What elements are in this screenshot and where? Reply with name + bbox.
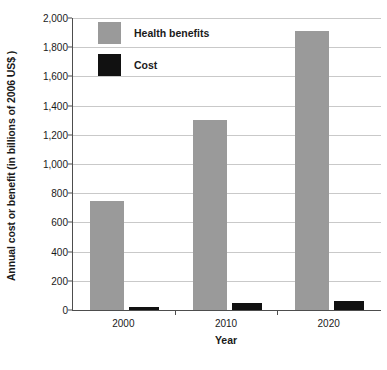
y-axis-tick-label: 1,800 — [43, 42, 68, 53]
y-axis-tick-label: 1,600 — [43, 71, 68, 82]
bar-health-benefits-2010[interactable] — [193, 120, 227, 310]
x-axis-tick-label: 2000 — [112, 318, 134, 329]
legend-label: Health benefits — [134, 27, 209, 39]
x-axis-tick-mark — [175, 311, 176, 315]
x-axis-tick-mark — [277, 311, 278, 315]
bar-cost-2000[interactable] — [129, 307, 159, 310]
bar-health-benefits-2020[interactable] — [295, 31, 329, 310]
legend-entry[interactable]: Cost — [98, 54, 209, 76]
y-axis-tick-label: 200 — [51, 275, 68, 286]
y-axis-tick-labels: 02004006008001,0001,2001,4001,6001,8002,… — [22, 18, 72, 310]
x-axis-tick-label: 2010 — [215, 318, 237, 329]
x-axis-title: Year — [72, 334, 380, 346]
y-axis-tick-label: 600 — [51, 217, 68, 228]
bar-cost-2010[interactable] — [232, 303, 262, 310]
y-axis-tick-label: 400 — [51, 246, 68, 257]
legend-swatch-cost — [98, 54, 121, 76]
y-axis-tick-label: 1,000 — [43, 159, 68, 170]
x-axis-tick-label: 2020 — [318, 318, 340, 329]
y-axis-tick-label: 2,000 — [43, 13, 68, 24]
y-axis-tick-label: 800 — [51, 188, 68, 199]
bar-cost-2020[interactable] — [334, 301, 364, 310]
bar-group — [295, 18, 364, 310]
y-axis-tick-label: 1,200 — [43, 129, 68, 140]
chart-legend: Health benefitsCost — [98, 22, 209, 76]
y-axis-tick-label: 1,400 — [43, 100, 68, 111]
legend-label: Cost — [134, 59, 157, 71]
y-axis-title: Annual cost or benefit (in billions of 2… — [0, 1, 22, 331]
legend-swatch-health-benefits — [98, 22, 121, 44]
legend-entry[interactable]: Health benefits — [98, 22, 209, 44]
bar-chart: Annual cost or benefit (in billions of 2… — [0, 0, 387, 370]
bar-health-benefits-2000[interactable] — [90, 201, 124, 311]
